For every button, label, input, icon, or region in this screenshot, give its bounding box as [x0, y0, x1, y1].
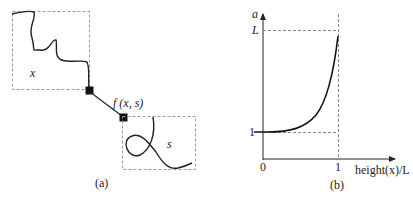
figure: x s f (x, s) (a) a L 1 0 1 height(x)/L (… [0, 0, 413, 201]
label-f: f (x, s) [113, 97, 143, 109]
label-x: x [30, 67, 35, 79]
curve-a [254, 36, 338, 132]
label-s: s [167, 138, 172, 150]
y-axis-label: a [252, 8, 258, 20]
box-x [13, 12, 90, 90]
x-tick-1: 1 [335, 161, 341, 173]
node-s [120, 114, 128, 122]
y-tick-L: L [252, 24, 259, 36]
x-axis-label: height(x)/L [355, 164, 410, 176]
y-tick-1: 1 [249, 126, 255, 138]
curve-s [126, 117, 192, 168]
caption-b: (b) [330, 179, 344, 191]
curve-x [12, 11, 89, 88]
box-s [123, 117, 196, 170]
caption-a: (a) [95, 177, 108, 189]
figure-svg [0, 0, 413, 201]
x-tick-0: 0 [260, 161, 266, 173]
panel-b [254, 14, 395, 160]
